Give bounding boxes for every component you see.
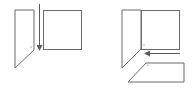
step-1-group — [15, 4, 82, 68]
step-2-group — [122, 10, 184, 82]
fold-diagram — [0, 0, 192, 96]
step2-flap-dot — [147, 64, 148, 65]
step1-dot — [30, 46, 31, 47]
step2-bottom-flap — [128, 63, 184, 82]
diagram-svg — [0, 0, 192, 96]
step2-square — [142, 11, 180, 50]
step2-left-panel — [122, 10, 141, 68]
step1-square — [44, 11, 82, 50]
step1-left-panel — [15, 10, 34, 68]
step2-square-dot — [143, 44, 144, 45]
